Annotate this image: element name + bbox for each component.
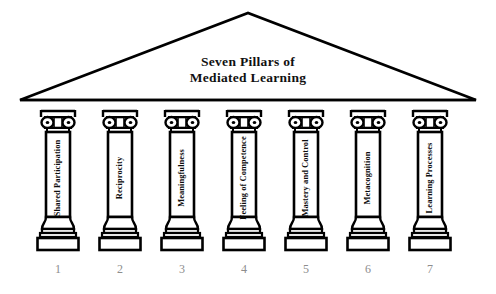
- capital-volute-right-eye: [191, 121, 195, 124]
- pillar-number: 2: [98, 262, 142, 277]
- column-plinth: [410, 238, 451, 250]
- pillar-6[interactable]: Metacognition: [346, 108, 390, 256]
- seven-pillars-diagram: Seven Pillars of Mediated Learning Share…: [0, 0, 496, 294]
- column-plinth: [348, 238, 389, 250]
- pillar-label: Learning Processes: [423, 126, 437, 230]
- column-base-fillet-lower: [412, 233, 448, 237]
- pillar-row: Shared ParticipationReciprocityMeaningfu…: [0, 108, 496, 258]
- pillar-label: Meaningfulness: [175, 126, 189, 230]
- capital-volute-left-eye: [294, 121, 298, 124]
- column-plinth: [100, 238, 141, 250]
- capital-volute-left-eye: [46, 121, 50, 124]
- pillar-4[interactable]: Feeling of Competence: [222, 108, 266, 256]
- pillar-label: Metacognition: [361, 126, 375, 230]
- pillar-label: Reciprocity: [113, 126, 127, 230]
- diagram-title: Seven Pillars of Mediated Learning: [0, 54, 496, 86]
- pillar-number: 6: [346, 262, 390, 277]
- pillar-number-row: 1234567: [0, 262, 496, 286]
- pillar-7[interactable]: Learning Processes: [408, 108, 452, 256]
- pillar-number: 1: [36, 262, 80, 277]
- column-plinth: [162, 238, 203, 250]
- capital-volute-right-eye: [253, 121, 257, 124]
- pillar-label: Mastery and Control: [299, 126, 313, 230]
- title-line-2: Mediated Learning: [0, 70, 496, 86]
- pillar-number: 7: [408, 262, 452, 277]
- capital-volute-right-eye: [439, 121, 443, 124]
- column-base-fillet-lower: [40, 233, 76, 237]
- pillar-2[interactable]: Reciprocity: [98, 108, 142, 256]
- column-base-fillet-lower: [288, 233, 324, 237]
- column-plinth: [38, 238, 79, 250]
- capital-volute-right-eye: [377, 121, 381, 124]
- capital-volute-right-eye: [129, 121, 133, 124]
- pillar-label: Shared Participation: [51, 126, 65, 230]
- capital-volute-left-eye: [232, 121, 236, 124]
- capital-volute-right-eye: [315, 121, 319, 124]
- pillar-number: 4: [222, 262, 266, 277]
- column-base-fillet-lower: [102, 233, 138, 237]
- capital-volute-left-eye: [170, 121, 174, 124]
- capital-volute-left-eye: [356, 121, 360, 124]
- capital-volute-left-eye: [418, 121, 422, 124]
- pillar-number: 3: [160, 262, 204, 277]
- pillar-3[interactable]: Meaningfulness: [160, 108, 204, 256]
- pillar-number: 5: [284, 262, 328, 277]
- pillar-label: Feeling of Competence: [237, 126, 251, 230]
- capital-volute-right-eye: [67, 121, 71, 124]
- title-line-1: Seven Pillars of: [0, 54, 496, 70]
- pillar-1[interactable]: Shared Participation: [36, 108, 80, 256]
- column-base-fillet-lower: [350, 233, 386, 237]
- column-base-fillet-lower: [226, 233, 262, 237]
- column-plinth: [286, 238, 327, 250]
- pillar-5[interactable]: Mastery and Control: [284, 108, 328, 256]
- capital-volute-left-eye: [108, 121, 112, 124]
- column-base-fillet-lower: [164, 233, 200, 237]
- column-plinth: [224, 238, 265, 250]
